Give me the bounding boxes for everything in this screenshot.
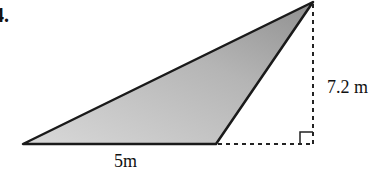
triangle-shape	[23, 2, 313, 144]
triangle-diagram	[0, 0, 382, 177]
height-label: 7.2 m	[327, 77, 368, 98]
right-angle-marker	[300, 132, 313, 144]
base-label: 5m	[114, 151, 137, 172]
